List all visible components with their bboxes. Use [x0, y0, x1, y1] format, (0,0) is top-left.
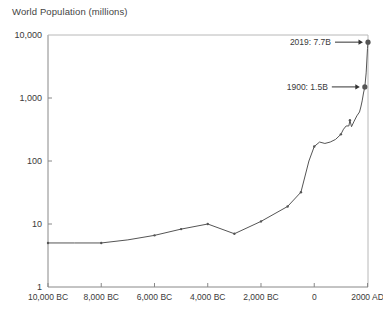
y-axis-tick-labels: 1101001,00010,000: [14, 30, 42, 292]
annotation-arrow: [355, 84, 360, 89]
x-tick-label: 6,000 BC: [137, 292, 172, 302]
data-point-marker: [313, 145, 315, 147]
x-tick-label: 10,000 BC: [28, 292, 68, 302]
annotation-label: 1900: 1.5B: [287, 82, 328, 92]
data-point-marker: [300, 191, 302, 193]
y-tick-label: 10: [32, 219, 42, 229]
y-tick-label: 10,000: [14, 30, 42, 40]
annotation-arrow: [359, 40, 364, 45]
x-tick-label: 4,000 BC: [190, 292, 225, 302]
data-point-marker: [47, 242, 49, 244]
population-line: [48, 42, 368, 243]
annotation-label: 2019: 7.7B: [290, 37, 331, 47]
chart-plot-area: 2019: 7.7B1900: 1.5B 1101001,00010,000 1…: [0, 0, 383, 310]
data-point-marker: [180, 228, 182, 230]
data-point-marker: [286, 205, 288, 207]
axes-layer: [48, 35, 368, 287]
x-tick-label: 2,000 BC: [243, 292, 278, 302]
data-point-marker: [260, 220, 262, 222]
data-point-marker: [349, 119, 351, 121]
population-series: [48, 42, 368, 243]
data-point-marker: [100, 242, 102, 244]
data-point-marker: [207, 223, 209, 225]
data-point-marker: [365, 40, 370, 45]
data-point-marker: [340, 133, 342, 135]
y-tick-label: 100: [27, 156, 42, 166]
data-point-marker: [233, 233, 235, 235]
annotations-layer: 2019: 7.7B1900: 1.5B: [287, 37, 363, 92]
x-tick-label: 2000 AD: [351, 292, 383, 302]
world-population-chart: World Population (millions) 2019: 7.7B19…: [0, 0, 383, 310]
data-point-marker: [362, 84, 367, 89]
x-tick-label: 0: [312, 292, 317, 302]
y-tick-label: 1,000: [19, 93, 42, 103]
x-axis-tick-labels: 10,000 BC8,000 BC6,000 BC4,000 BC2,000 B…: [28, 292, 383, 302]
data-point-marker: [153, 234, 155, 236]
y-tick-label: 1: [37, 282, 42, 292]
x-tick-label: 8,000 BC: [84, 292, 119, 302]
data-point-markers: [47, 40, 371, 245]
